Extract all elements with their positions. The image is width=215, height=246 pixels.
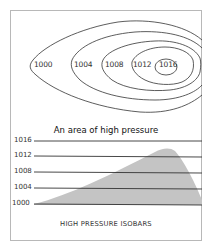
contour-label-1004: 1004 — [74, 61, 92, 69]
diagram-caption: HIGH PRESSURE ISOBARS — [10, 220, 202, 228]
isobar-label-1008: 1008 — [14, 168, 32, 175]
isobar-label-1000: 1000 — [12, 200, 30, 207]
contour-label-1008: 1008 — [105, 61, 123, 69]
contour-label-1012: 1012 — [133, 61, 151, 69]
contour-label-1000: 1000 — [34, 61, 52, 69]
isobar-label-1004: 1004 — [14, 184, 32, 191]
isobar-label-1016: 1016 — [14, 137, 32, 144]
contour-label-1016: 1016 — [159, 61, 177, 69]
diagram-title: An area of high pressure — [10, 125, 202, 135]
isobar-label-1012: 1012 — [14, 152, 32, 159]
isobar-diagram — [0, 0, 215, 246]
